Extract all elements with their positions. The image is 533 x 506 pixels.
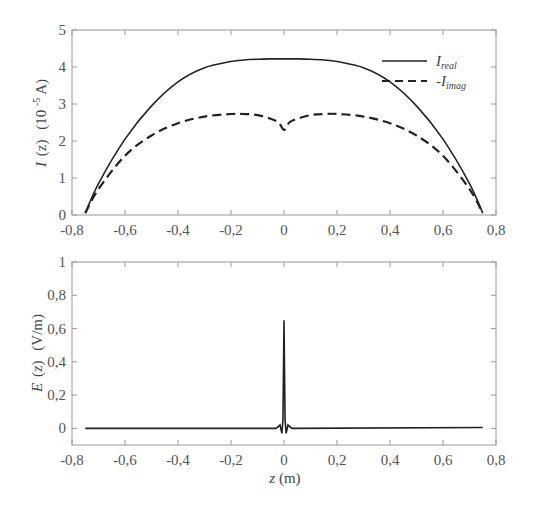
field-plot-x-axis-label: z (m) <box>268 470 300 487</box>
x-tick-label: -0,4 <box>166 222 190 238</box>
y-tick-label: 3 <box>59 96 67 112</box>
y-tick-label: 4 <box>59 59 67 75</box>
x-tick-label: -0,6 <box>113 452 137 468</box>
x-tick-label: -0,2 <box>219 452 243 468</box>
x-tick-label: 0,2 <box>328 452 347 468</box>
x-tick-label: -0,4 <box>166 452 190 468</box>
x-tick-label: 0,8 <box>487 452 506 468</box>
y-tick-label: 1 <box>59 254 67 270</box>
y-tick-label: 5 <box>59 22 67 38</box>
y-tick-label: 2 <box>59 133 67 149</box>
x-tick-label: -0,6 <box>113 222 137 238</box>
x-tick-label: 0,4 <box>381 452 400 468</box>
y-tick-label: 1 <box>59 170 67 186</box>
y-label-unit-pre: (10 <box>33 110 50 130</box>
x-tick-label: 0,8 <box>487 222 506 238</box>
y-tick-label: 0,4 <box>47 354 66 370</box>
x-tick-label: 0 <box>280 452 288 468</box>
field-plot: -0,8-0,6-0,4-0,200,20,40,60,8 00,20,40,6… <box>29 254 505 487</box>
figure: -0,8-0,6-0,4-0,200,20,40,60,8 012345 I (… <box>0 0 533 506</box>
x-tick-label: 0,2 <box>328 222 347 238</box>
y-tick-label: 0,8 <box>47 287 66 303</box>
current-plot-frame <box>72 30 496 215</box>
y-tick-label: 0,2 <box>47 387 66 403</box>
y-label-unit-exp: -5 <box>31 98 42 106</box>
legend-item-real: Ireal <box>382 53 457 71</box>
x-tick-label: 0,6 <box>434 452 453 468</box>
legend-label-real: Ireal <box>435 53 457 71</box>
field-plot-series <box>85 320 483 433</box>
field-plot-y-axis-label: E (z) (V/m) <box>29 314 46 393</box>
series-iimag-line <box>85 114 483 213</box>
x-tick-label: -0,8 <box>60 452 84 468</box>
legend-label-imag: -Iimag <box>436 73 466 91</box>
series-e-line <box>85 320 483 433</box>
field-plot-y-ticks: 00,20,40,60,81 <box>47 254 496 436</box>
y-tick-label: 0 <box>59 207 67 223</box>
y-label-arg: (z) <box>33 140 50 157</box>
y-tick-label: 0,6 <box>47 321 66 337</box>
x-tick-label: -0,2 <box>219 222 243 238</box>
y-label-var: I <box>33 161 49 168</box>
x-tick-label: 0 <box>280 222 288 238</box>
current-plot: -0,8-0,6-0,4-0,200,20,40,60,8 012345 I (… <box>27 22 505 238</box>
x-tick-label: 0,6 <box>434 222 453 238</box>
x-tick-label: 0,4 <box>381 222 400 238</box>
x-tick-label: -0,8 <box>60 222 84 238</box>
y-label-unit-post: A) <box>33 79 50 95</box>
current-plot-y-axis-label: I (z) (10 -5 A) <box>27 79 50 168</box>
legend-item-imag: -Iimag <box>382 73 466 91</box>
y-tick-label: 0 <box>59 420 67 436</box>
